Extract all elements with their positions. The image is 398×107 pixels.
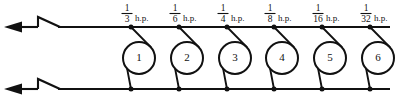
rating-denominator: 8 <box>268 14 273 24</box>
tap-node-top <box>320 25 325 30</box>
motor-branch: 2 <box>171 25 203 92</box>
motor-rating-label: 14h.p. <box>218 3 245 24</box>
tap-node-bottom <box>129 87 134 92</box>
rating-denominator: 3 <box>125 14 130 24</box>
rating-unit: h.p. <box>326 13 340 23</box>
rating-denominator: 4 <box>221 14 226 24</box>
tap-node-bottom <box>177 87 182 92</box>
motor-rating-label: 16h.p. <box>170 3 197 24</box>
motor-branch: 5 <box>314 25 346 92</box>
bottom-supply-conductor <box>4 79 390 95</box>
tap-node-top <box>368 25 373 30</box>
rating-unit: h.p. <box>231 13 245 23</box>
tap-node-top <box>177 25 182 30</box>
motor-rating-label: 132h.p. <box>361 3 388 24</box>
motor-branch: 3 <box>219 25 251 92</box>
tap-node-top <box>129 25 134 30</box>
rating-unit: h.p. <box>183 13 197 23</box>
rating-numerator: 1 <box>173 3 178 13</box>
branch-layer: 123456 <box>123 25 394 92</box>
bottom-break-symbol-icon <box>38 79 60 89</box>
tap-node-top <box>225 25 230 30</box>
rating-denominator: 32 <box>361 14 371 24</box>
motor-number: 5 <box>327 51 333 63</box>
rating-numerator: 1 <box>268 3 273 13</box>
rating-denominator: 16 <box>313 14 323 24</box>
rating-unit: h.p. <box>278 13 292 23</box>
rating-numerator: 1 <box>364 3 369 13</box>
tap-node-top <box>272 25 277 30</box>
tap-node-bottom <box>272 87 277 92</box>
rating-numerator: 1 <box>316 3 321 13</box>
motor-rating-label: 13h.p. <box>122 3 149 24</box>
motor-number: 3 <box>232 51 238 63</box>
motor-rating-label: 18h.p. <box>265 3 292 24</box>
motor-number: 4 <box>279 51 285 63</box>
rating-numerator: 1 <box>221 3 226 13</box>
top-feed-arrow-icon <box>4 22 22 33</box>
tap-node-bottom <box>368 87 373 92</box>
diagram-canvas: 123456 13h.p.16h.p.14h.p.18h.p.116h.p.13… <box>0 0 398 107</box>
tap-node-bottom <box>320 87 325 92</box>
motor-rating-label: 116h.p. <box>313 3 340 24</box>
rating-denominator: 6 <box>173 14 178 24</box>
rating-label-layer: 13h.p.16h.p.14h.p.18h.p.116h.p.132h.p. <box>122 3 388 24</box>
tap-node-bottom <box>225 87 230 92</box>
rating-numerator: 1 <box>125 3 130 13</box>
motor-branch: 6 <box>362 25 394 92</box>
motor-branch: 1 <box>123 25 155 92</box>
motor-circuit-diagram: 123456 13h.p.16h.p.14h.p.18h.p.116h.p.13… <box>0 0 398 107</box>
top-break-symbol-icon <box>38 17 60 27</box>
rating-unit: h.p. <box>374 13 388 23</box>
motor-number: 2 <box>184 51 190 63</box>
rating-unit: h.p. <box>135 13 149 23</box>
bottom-feed-arrow-icon <box>4 84 22 95</box>
motor-number: 6 <box>375 51 381 63</box>
motor-branch: 4 <box>266 25 298 92</box>
motor-number: 1 <box>136 51 142 63</box>
